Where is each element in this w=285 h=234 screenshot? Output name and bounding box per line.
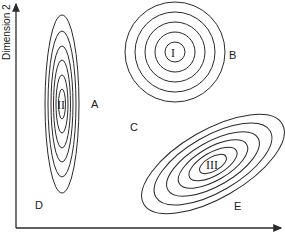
region-label-B: B bbox=[229, 49, 236, 61]
cluster-I-ring-1 bbox=[125, 2, 225, 102]
cluster-III-label: III bbox=[206, 158, 218, 172]
y-axis-label: Dimension 2 bbox=[1, 4, 12, 60]
diagram-canvas: Dimension 2 I II III A B C D E bbox=[0, 0, 285, 234]
cluster-I-label: I bbox=[171, 46, 175, 60]
region-label-C: C bbox=[130, 121, 138, 133]
cluster-contour-diagram: Dimension 2 I II III A B C D E bbox=[0, 0, 285, 234]
cluster-I-ring-4 bbox=[155, 32, 195, 72]
cluster-I-contours bbox=[125, 2, 225, 102]
cluster-II-label: II bbox=[57, 98, 65, 112]
region-label-D: D bbox=[35, 199, 43, 211]
region-label-A: A bbox=[91, 98, 99, 110]
cluster-I-ring-5 bbox=[165, 42, 185, 62]
cluster-I-ring-3 bbox=[145, 22, 205, 82]
region-label-E: E bbox=[234, 200, 241, 212]
cluster-I-ring-2 bbox=[135, 12, 215, 92]
